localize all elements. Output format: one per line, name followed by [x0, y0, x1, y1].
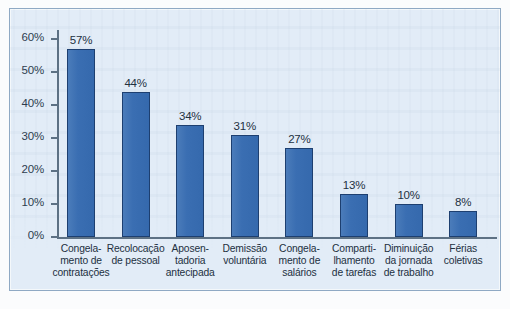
y-axis-tick-label: 0% [10, 229, 44, 241]
bar[interactable] [449, 211, 477, 237]
x-axis-category-label: Férias coletivas [433, 243, 493, 267]
x-axis-category-label: Diminuição da jornada de trabalho [379, 243, 439, 280]
bar[interactable] [176, 125, 204, 237]
bar[interactable] [67, 49, 95, 237]
bar[interactable] [340, 194, 368, 237]
bar-value-label: 57% [56, 34, 106, 46]
scanned-page: 0%10%20%30%40%50%60%57%Congela- mento de… [0, 0, 510, 309]
bar-value-label: 10% [384, 189, 434, 201]
x-axis-category-label: Comparti- lhamento de tarefas [324, 243, 384, 280]
bar-value-label: 8% [438, 196, 488, 208]
y-axis-tick-label: 40% [10, 97, 44, 109]
y-axis-tick-label: 30% [10, 130, 44, 142]
bar-value-label: 13% [329, 179, 379, 191]
bar-chart-plot-area: 0%10%20%30%40%50%60%57%Congela- mento de… [10, 9, 500, 290]
bar-value-label: 31% [220, 120, 270, 132]
y-axis-line [57, 30, 59, 238]
y-axis-tick-label: 50% [10, 64, 44, 76]
bar[interactable] [231, 135, 259, 237]
x-axis-line [57, 237, 497, 239]
bar-value-label: 27% [274, 133, 324, 145]
x-axis-category-label: Demissão voluntária [215, 243, 275, 267]
bar-value-label: 34% [165, 110, 215, 122]
x-axis-category-label: Recolocação de pessoal [106, 243, 166, 267]
x-axis-category-label: Congela- mento de salários [269, 243, 329, 280]
y-axis-tick-label: 20% [10, 163, 44, 175]
bar[interactable] [395, 204, 423, 237]
bar[interactable] [285, 148, 313, 237]
chart-frame: 0%10%20%30%40%50%60%57%Congela- mento de… [9, 8, 501, 291]
x-axis-category-label: Aposen- tadoria antecipada [160, 243, 220, 280]
bar[interactable] [122, 92, 150, 237]
y-axis-tick-label: 10% [10, 196, 44, 208]
x-axis-category-label: Congela- mento de contratações [51, 243, 111, 280]
bar-value-label: 44% [111, 77, 161, 89]
y-axis-tick-label: 60% [10, 31, 44, 43]
